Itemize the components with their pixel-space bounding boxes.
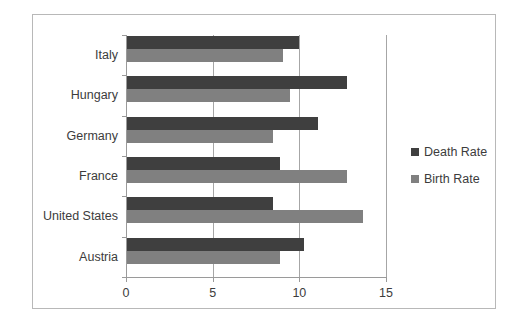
bar-death-rate xyxy=(127,117,318,130)
bar-group: Hungary xyxy=(127,75,386,115)
value-axis-label: 15 xyxy=(366,287,406,300)
bar-death-rate xyxy=(127,157,280,170)
bar-birth-rate xyxy=(127,130,273,143)
gridline-x-15 xyxy=(386,35,387,277)
category-tick xyxy=(122,35,127,36)
bar-death-rate xyxy=(127,197,273,210)
bar-birth-rate xyxy=(127,210,363,223)
value-tick-0 xyxy=(126,277,127,282)
bar-group: Austria xyxy=(127,237,386,277)
bar-death-rate xyxy=(127,238,304,251)
bar-group: Germany xyxy=(127,116,386,156)
bar-birth-rate xyxy=(127,170,347,183)
category-label: Austria xyxy=(0,251,118,264)
plot-area: ItalyHungaryGermanyFranceUnited StatesAu… xyxy=(126,35,386,277)
category-tick xyxy=(122,237,127,238)
bar-group: Italy xyxy=(127,35,386,75)
value-axis-line xyxy=(126,277,386,278)
value-tick-5 xyxy=(213,277,214,282)
value-axis-label: 0 xyxy=(106,287,146,300)
legend-label: Birth Rate xyxy=(424,172,480,186)
chart-frame: ItalyHungaryGermanyFranceUnited StatesAu… xyxy=(32,14,496,309)
chart-legend: Death RateBirth Rate xyxy=(411,145,487,199)
value-tick-10 xyxy=(299,277,300,282)
bar-group: France xyxy=(127,156,386,196)
legend-label: Death Rate xyxy=(424,145,487,159)
category-tick xyxy=(122,156,127,157)
category-label: Germany xyxy=(0,130,118,143)
bar-group: United States xyxy=(127,196,386,236)
value-axis-label: 10 xyxy=(279,287,319,300)
legend-swatch-icon xyxy=(411,175,419,183)
value-axis-label: 5 xyxy=(193,287,233,300)
category-tick xyxy=(122,116,127,117)
category-label: France xyxy=(0,170,118,183)
legend-entry-birth-rate[interactable]: Birth Rate xyxy=(411,172,487,186)
category-label: Italy xyxy=(0,49,118,62)
legend-entry-death-rate[interactable]: Death Rate xyxy=(411,145,487,159)
category-label: United States xyxy=(0,210,118,223)
bar-birth-rate xyxy=(127,251,280,264)
bar-death-rate xyxy=(127,36,299,49)
category-tick xyxy=(122,75,127,76)
legend-swatch-icon xyxy=(411,148,419,156)
bar-birth-rate xyxy=(127,49,283,62)
category-label: Hungary xyxy=(0,89,118,102)
bar-birth-rate xyxy=(127,89,290,102)
bar-death-rate xyxy=(127,76,347,89)
category-tick xyxy=(122,196,127,197)
value-tick-15 xyxy=(386,277,387,282)
